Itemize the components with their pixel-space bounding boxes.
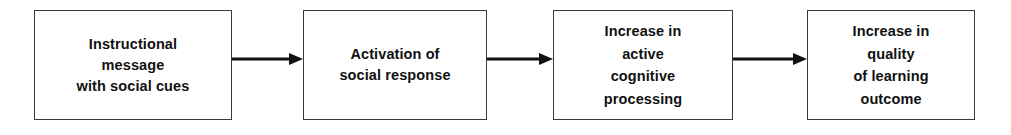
process-node-active-cognitive-processing: Increase in active cognitive processing [553,10,733,120]
arrow-right-icon [232,53,303,65]
arrow-connector-3 [733,51,807,67]
arrow-connector-1 [232,51,303,67]
arrow-right-icon [487,53,553,65]
arrow-connector-2 [487,51,553,67]
process-node-activation-social-response: Activation of social response [303,10,487,120]
process-node-label: Increase in active cognitive processing [600,20,686,110]
process-node-quality-of-learning-outcome: Increase in quality of learning outcome [807,10,975,120]
flowchart-diagram: Instructional message with social cues A… [0,0,1011,135]
process-node-label: Increase in quality of learning outcome [849,20,934,110]
arrow-right-icon [733,53,807,65]
process-node-label: Instructional message with social cues [73,34,194,97]
process-node-instructional-message: Instructional message with social cues [34,10,232,120]
process-node-label: Activation of social response [335,44,454,86]
